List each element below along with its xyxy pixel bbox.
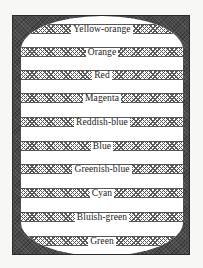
band-blue: Blue xyxy=(21,141,183,151)
band-label: Red xyxy=(92,71,112,80)
band-label: Green xyxy=(88,237,116,246)
band-greenish-blue: Greenish-blue xyxy=(21,164,183,174)
band-label: Magenta xyxy=(83,94,121,103)
band-bluish-green: Bluish-green xyxy=(21,212,183,222)
band-label: Greenish-blue xyxy=(72,165,131,174)
band-label: Yellow-orange xyxy=(71,25,132,34)
band-label: Blue xyxy=(91,142,113,151)
hue-band-figure: Yellow-orange Orange Red Magenta Reddish… xyxy=(12,15,190,255)
band-red: Red xyxy=(21,70,183,80)
band-label: Cyan xyxy=(90,189,114,198)
band-cyan: Cyan xyxy=(21,188,183,198)
circular-aperture: Yellow-orange Orange Red Magenta Reddish… xyxy=(21,16,183,255)
band-yellow-orange: Yellow-orange xyxy=(21,24,183,34)
band-label: Bluish-green xyxy=(75,213,129,222)
band-magenta: Magenta xyxy=(21,93,183,103)
band-orange: Orange xyxy=(21,47,183,57)
band-label: Reddish-blue xyxy=(74,118,130,127)
band-label: Orange xyxy=(86,48,119,57)
band-green: Green xyxy=(21,236,183,246)
band-reddish-blue: Reddish-blue xyxy=(21,117,183,127)
